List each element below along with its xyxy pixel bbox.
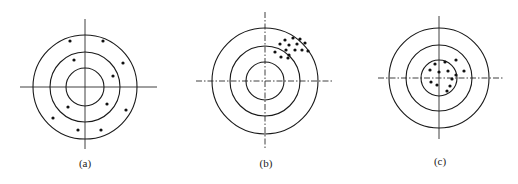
shot-point xyxy=(454,58,457,61)
shot-point xyxy=(124,108,127,111)
shot-point xyxy=(279,55,282,58)
shot-point xyxy=(293,48,296,51)
shot-points xyxy=(51,39,127,131)
shot-point xyxy=(298,37,301,40)
shot-point xyxy=(273,50,276,53)
shot-point xyxy=(68,39,71,42)
shot-point xyxy=(99,128,102,131)
panel-label: (a) xyxy=(79,157,92,170)
shot-point xyxy=(51,116,54,119)
target-panel-a: (a) xyxy=(20,19,157,170)
shot-point xyxy=(287,53,290,56)
shot-point xyxy=(446,69,449,72)
shot-point xyxy=(448,84,451,87)
shot-point xyxy=(306,49,309,52)
shot-point xyxy=(303,41,306,44)
shot-point xyxy=(284,48,287,51)
shot-point xyxy=(454,73,457,76)
shot-point xyxy=(437,70,440,73)
shot-point xyxy=(443,60,446,63)
shot-point xyxy=(287,43,290,46)
shot-point xyxy=(105,102,108,105)
shot-point xyxy=(428,68,431,71)
shot-point xyxy=(291,36,294,39)
shot-point xyxy=(66,105,69,108)
shot-point xyxy=(295,42,298,45)
shot-point xyxy=(300,48,303,51)
shot-point xyxy=(435,83,438,86)
shot-point xyxy=(433,62,436,65)
target-shooting-diagram: (a) (b) (c) xyxy=(0,0,518,184)
shot-points xyxy=(428,58,465,92)
shot-points xyxy=(273,36,309,59)
shot-point xyxy=(111,74,114,77)
target-panel-b: (b) xyxy=(196,12,334,170)
shot-point xyxy=(121,61,124,64)
shot-point xyxy=(283,38,286,41)
shot-point xyxy=(445,89,448,92)
panel-label: (c) xyxy=(434,155,447,168)
shot-point xyxy=(450,77,453,80)
panel-label: (b) xyxy=(260,157,273,170)
shot-point xyxy=(101,39,104,42)
target-panel-c: (c) xyxy=(378,16,503,168)
shot-point xyxy=(76,128,79,131)
shot-point xyxy=(429,80,432,83)
shot-point xyxy=(462,69,465,72)
shot-point xyxy=(278,42,281,45)
shot-point xyxy=(286,56,289,59)
shot-point xyxy=(72,58,75,61)
